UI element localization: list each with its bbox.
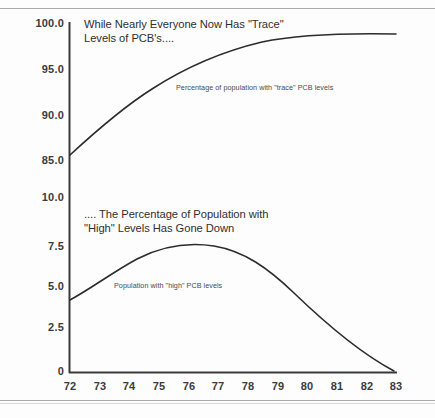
y-tick-label: 7.5 <box>18 241 64 252</box>
series-line-high <box>70 245 394 371</box>
x-tick-74: 74 <box>116 380 142 392</box>
y-tick-7-5: 7.5 <box>14 241 64 252</box>
y-tick-10: 10.0 <box>14 192 64 203</box>
x-tick-77: 77 <box>205 380 231 392</box>
x-tick-79: 79 <box>265 380 291 392</box>
series-line-trace <box>70 34 396 155</box>
y-tick-label: 85.0 <box>18 155 64 166</box>
x-tick-76: 76 <box>176 380 202 392</box>
y-tick-label: 90.0 <box>18 110 64 121</box>
y-tick-95: 95.0 <box>14 64 64 75</box>
y-tick-90: 90.0 <box>14 110 64 121</box>
y-tick-label: 2.5 <box>18 322 64 333</box>
chart-figure: 100.0 95.0 90.0 85.0 10.0 7.5 5.0 2.5 0 … <box>0 0 435 418</box>
y-tick-label: 95.0 <box>18 64 64 75</box>
y-tick-100: 100.0 <box>14 18 64 29</box>
y-tick-85: 85.0 <box>14 155 64 166</box>
y-tick-label: 0 <box>18 366 64 377</box>
x-tick-73: 73 <box>87 380 113 392</box>
x-tick-72: 72 <box>57 380 83 392</box>
x-tick-78: 78 <box>235 380 261 392</box>
y-tick-label: 10.0 <box>18 192 64 203</box>
series-annotation-high: Population with "high" PCB levels <box>114 281 222 290</box>
x-tick-82: 82 <box>354 380 380 392</box>
x-tick-83: 83 <box>383 380 409 392</box>
headline-high: .... The Percentage of Population with "… <box>84 208 334 235</box>
y-tick-2-5: 2.5 <box>14 322 64 333</box>
x-tick-75: 75 <box>146 380 172 392</box>
headline-trace: While Nearly Everyone Now Has "Trace" Le… <box>84 18 334 45</box>
y-tick-label: 100.0 <box>18 18 64 29</box>
x-tick-81: 81 <box>324 380 350 392</box>
series-annotation-trace: Percentage of population with "trace" PC… <box>176 83 333 92</box>
y-tick-label: 5.0 <box>18 281 64 292</box>
x-tick-80: 80 <box>294 380 320 392</box>
y-tick-5: 5.0 <box>14 281 64 292</box>
y-tick-0: 0 <box>14 366 64 377</box>
